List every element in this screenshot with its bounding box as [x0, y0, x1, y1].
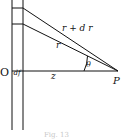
label-slab-thickness: df — [14, 69, 22, 77]
ray-r-plus-dr — [23, 8, 118, 71]
label-ray-r-plus-dr: r + d r — [62, 23, 93, 33]
label-angle-theta: θ — [86, 60, 91, 69]
figure: O df z P r r + d r θ Fig. 13 — [0, 0, 125, 140]
label-point-p: P — [112, 75, 120, 86]
figure-caption: Fig. 13 — [44, 131, 69, 139]
label-ray-r: r — [56, 40, 61, 50]
label-distance-z: z — [50, 71, 56, 81]
label-origin: O — [0, 66, 9, 79]
geometry-diagram: O df z P r r + d r θ Fig. 13 — [0, 0, 125, 140]
